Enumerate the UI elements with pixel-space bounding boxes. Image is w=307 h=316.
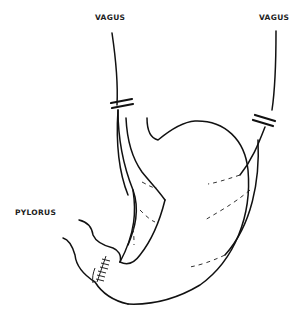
- antrum-upper: [120, 190, 135, 262]
- right-vagus-cut-mark-lower: [253, 120, 273, 126]
- fundus-curve: [128, 118, 249, 304]
- duodenum-upper: [79, 220, 121, 262]
- right-vagus-cut-mark-upper: [255, 115, 275, 121]
- stomach-diagram: [0, 0, 307, 316]
- right-vagus-dashed-branch-2: [205, 190, 250, 220]
- right-vagus-dashed-branch-1: [208, 175, 240, 184]
- right-vagus-dashed-branch-3: [190, 255, 225, 267]
- right-vagus-posterior-trunk: [225, 140, 258, 255]
- left-vagus-nerve: [112, 33, 117, 105]
- lesser-curvature: [120, 200, 165, 264]
- anterior-vagal-branch-2: [140, 210, 155, 222]
- right-vagus-nerve: [272, 31, 276, 110]
- duodenum-lower: [63, 238, 128, 304]
- left-vagus-cut-mark-upper: [111, 99, 132, 103]
- left-vagus-cut-mark-lower: [112, 104, 133, 108]
